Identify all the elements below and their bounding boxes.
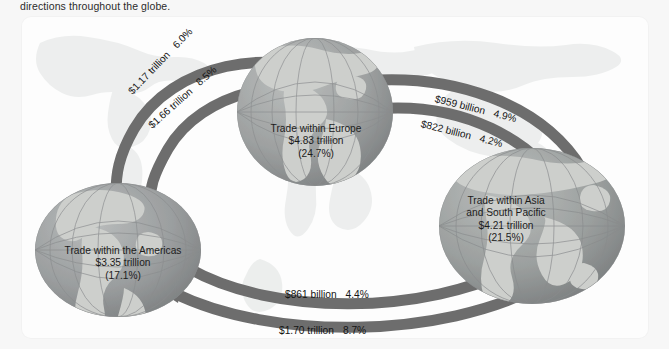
figure-panel: Trade within the Americas $3.35 trillion… <box>22 17 648 338</box>
globe-europe <box>232 35 398 189</box>
figure-caption: directions throughout the globe. <box>20 0 170 12</box>
globe-asia <box>434 145 630 307</box>
page-background: directions throughout the globe. <box>0 0 669 349</box>
globe-americas <box>28 180 208 320</box>
